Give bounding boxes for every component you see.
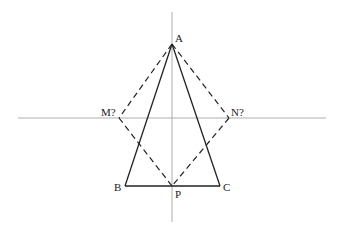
label-P: P xyxy=(175,188,181,200)
segment-AC xyxy=(172,44,220,186)
label-M: M? xyxy=(101,106,116,118)
label-B: B xyxy=(114,181,121,193)
segment-MP xyxy=(119,118,172,186)
label-C: C xyxy=(223,181,230,193)
geometry-diagram: A B C P M? N? xyxy=(0,0,344,235)
segment-AB xyxy=(125,44,172,186)
segment-AN xyxy=(172,44,229,118)
label-N: N? xyxy=(231,106,244,118)
label-A: A xyxy=(175,32,183,44)
segment-AM xyxy=(119,44,172,118)
